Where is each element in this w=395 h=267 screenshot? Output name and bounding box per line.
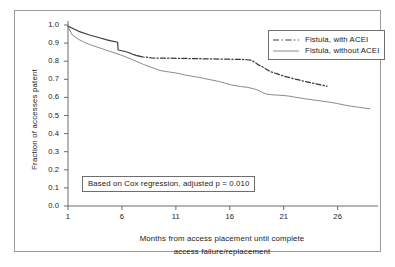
- x-tick-label: 16: [220, 212, 240, 221]
- x-tick-label: 21: [274, 212, 294, 221]
- y-tick-label: 0.5: [35, 111, 59, 120]
- figure-frame: Fraction of accesses patent Months from …: [14, 10, 381, 252]
- legend-swatch-solid: [273, 47, 299, 55]
- y-tick-label: 0.9: [35, 38, 59, 47]
- y-tick-label: 1.0: [35, 20, 59, 29]
- x-axis-title-line2: access failure/replacement: [77, 245, 367, 258]
- x-tick-label: 1: [58, 212, 78, 221]
- y-tick-label: 0.2: [35, 165, 59, 174]
- y-tick-label: 0.0: [35, 201, 59, 210]
- legend-item-with-acei: Fistula, with ACEI: [273, 34, 379, 45]
- x-tick-label: 26: [328, 212, 348, 221]
- y-tick-label: 0.6: [35, 92, 59, 101]
- series-0-dash-backing: [139, 56, 327, 86]
- legend-item-without-acei: Fistula, without ACEI: [273, 45, 379, 56]
- x-tick-label: 11: [166, 212, 186, 221]
- y-tick-label: 0.4: [35, 129, 59, 138]
- y-tick-label: 0.7: [35, 74, 59, 83]
- legend-label-with-acei: Fistula, with ACEI: [305, 35, 368, 44]
- legend-label-without-acei: Fistula, without ACEI: [305, 46, 379, 55]
- x-tick-label: 6: [112, 212, 132, 221]
- x-axis-title: Months from access placement until compl…: [77, 232, 367, 258]
- chart-legend: Fistula, with ACEI Fistula, without ACEI: [268, 30, 385, 60]
- y-tick-label: 0.3: [35, 147, 59, 156]
- legend-swatch-dash-dot: [273, 36, 299, 44]
- y-tick-label: 0.8: [35, 56, 59, 65]
- statistics-annotation: Based on Cox regression, adjusted p = 0.…: [82, 176, 255, 192]
- x-axis-title-line1: Months from access placement until compl…: [77, 232, 367, 245]
- series-0-dashed-segment: [139, 56, 327, 86]
- y-tick-label: 0.1: [35, 183, 59, 192]
- figure-container: Fraction of accesses patent Months from …: [0, 0, 395, 267]
